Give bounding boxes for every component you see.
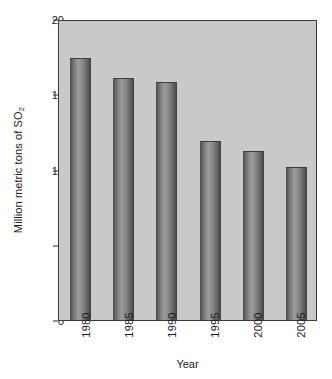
x-axis-title: Year	[58, 358, 317, 370]
y-axis-title-text: Million metric tons of SO2	[12, 107, 24, 233]
bar-1995	[200, 141, 221, 320]
bar-2005	[286, 167, 307, 321]
y-axis-title: Million metric tons of SO2	[0, 0, 36, 340]
bars-container	[59, 21, 316, 320]
bar-1985	[113, 78, 134, 320]
bar-1990	[156, 82, 177, 320]
plot-area	[58, 20, 317, 321]
bar-1980	[70, 58, 91, 320]
chart-figure: Million metric tons of SO2 05101520 1980…	[0, 0, 332, 379]
y-axis-title-subscript: 2	[17, 107, 26, 112]
bar-2000	[243, 151, 264, 320]
